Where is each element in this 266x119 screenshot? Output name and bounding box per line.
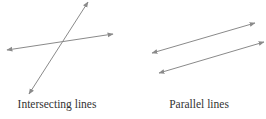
intersecting-line-1 — [29, 2, 88, 94]
parallel-line-1 — [152, 23, 255, 53]
intersecting-lines-label: Intersecting lines — [18, 98, 97, 110]
intersecting-line-2 — [7, 34, 113, 50]
parallel-lines-label: Parallel lines — [169, 98, 229, 110]
